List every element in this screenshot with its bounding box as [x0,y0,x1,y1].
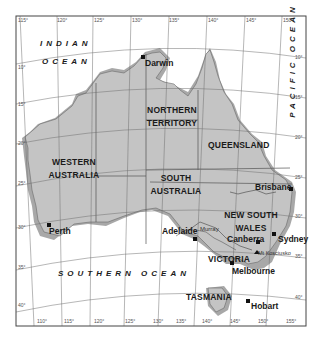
city-label-brisbane: Brisbane [255,182,291,192]
tick-left-20: 20° [18,140,26,146]
tick-right-10: 10° [295,54,303,60]
tick-bottom-145: 145° [230,318,240,324]
tick-bottom-135: 135° [176,318,186,324]
state-label-queensland: QUEENSLAND [208,139,270,152]
city-label-melbourne: Melbourne [232,266,275,276]
adelaide-marker [193,237,197,241]
state-label-tasmania: TASMANIA [186,291,232,304]
feature-label-kosciusko: Mt Kosciusko [258,250,291,256]
tick-left-30: 30° [18,224,26,230]
feature-label-murray: Murray [200,226,219,232]
tick-bottom-125: 125° [125,318,135,324]
tick-left-15: 15° [18,101,26,107]
tick-bottom-150: 150° [258,318,268,324]
tick-top-140: 140° [208,17,218,23]
tick-right-25: 25° [295,174,303,180]
tick-top-120: 120° [57,17,67,23]
tick-right-35: 35° [295,253,303,259]
tick-top-125: 125° [94,17,104,23]
tick-bottom-110: 110° [37,318,47,324]
city-label-perth: Perth [49,226,71,236]
tick-right-40: 40° [295,294,303,300]
tick-top-130: 130° [132,17,142,23]
tick-right-20: 20° [295,134,303,140]
state-label-western-australia: WESTERN AUSTRALIA [46,156,102,182]
city-label-sydney: Sydney [278,234,308,244]
state-label-victoria: VICTORIA [208,253,250,266]
city-label-canberra: Canberra [227,234,264,244]
tick-left-35: 35° [18,264,26,270]
indian-ocean-label-1: INDIAN [40,39,92,48]
tick-bottom-130: 130° [153,318,163,324]
city-label-adelaide: Adelaide [162,226,197,236]
tick-bottom-140: 140° [202,318,212,324]
state-label-new-south-wales: NEW SOUTH WALES [218,209,284,235]
tick-bottom-155: 155° [286,318,296,324]
tick-left-40: 40° [18,302,26,308]
tick-right-15: 15° [295,94,303,100]
tick-right-30: 30° [295,213,303,219]
indian-ocean-label-2: OCEAN [42,57,91,66]
hobart-marker [246,299,250,303]
state-label-south-australia: SOUTH AUSTRALIA [146,172,206,198]
tick-bottom-115: 115° [64,318,74,324]
tick-top-135: 135° [169,17,179,23]
tick-left-25: 25° [18,180,26,186]
tick-bottom-120: 120° [94,318,104,324]
tick-top-150: 150° [283,17,293,23]
city-label-darwin: Darwin [145,58,173,68]
tick-top-145: 145° [246,17,256,23]
tick-left-10: 10° [18,64,26,70]
city-label-hobart: Hobart [251,301,278,311]
state-label-northern-territory: NORTHERN TERRITORY [136,104,208,130]
southern-ocean-label: SOUTHERN OCEAN [58,269,190,278]
tick-top-115: 115° [18,17,28,23]
